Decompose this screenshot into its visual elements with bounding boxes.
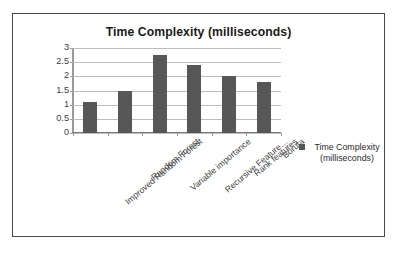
- x-axis-tick-mark: [73, 133, 74, 136]
- bar-slot: [246, 48, 281, 133]
- y-axis-tick-label: 0: [64, 128, 69, 137]
- chart-legend: Time Complexity (milliseconds): [299, 142, 395, 164]
- bars-layer: [73, 48, 281, 133]
- bar[interactable]: [222, 76, 236, 133]
- bar[interactable]: [83, 102, 97, 133]
- y-axis-tick-label: 3: [64, 43, 69, 52]
- bar[interactable]: [257, 82, 271, 133]
- bar[interactable]: [153, 55, 167, 133]
- chart-frame: Time Complexity (milliseconds) 00.511.52…: [12, 13, 385, 237]
- y-axis-tick-label: 1.5: [56, 86, 69, 95]
- bar-slot: [177, 48, 212, 133]
- bar-slot: [212, 48, 247, 133]
- plot-area: 00.511.522.53: [73, 48, 281, 133]
- series-color-swatch: [299, 144, 305, 150]
- bar-slot: [108, 48, 143, 133]
- bar[interactable]: [187, 65, 201, 133]
- bar[interactable]: [118, 91, 132, 134]
- y-axis-tick-label: 0.5: [56, 114, 69, 123]
- x-axis-tick-mark: [142, 133, 143, 136]
- y-axis-tick-label: 2: [64, 72, 69, 81]
- x-axis-tick-mark: [108, 133, 109, 136]
- bar-slot: [142, 48, 177, 133]
- chart-title: Time Complexity (milliseconds): [13, 25, 384, 39]
- x-axis-category-label: Random Forest: [150, 137, 201, 182]
- y-axis-tick-label: 1: [64, 100, 69, 109]
- bar-slot: [73, 48, 108, 133]
- y-axis-tick-label: 2.5: [56, 58, 69, 67]
- x-axis-tick-mark: [212, 133, 213, 136]
- x-axis-tick-mark: [177, 133, 178, 136]
- legend-label: Time Complexity (milliseconds): [308, 142, 386, 164]
